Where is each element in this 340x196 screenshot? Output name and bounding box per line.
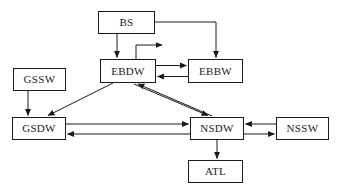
node-ebdw-label: EBDW <box>111 66 145 77</box>
node-bs[interactable]: BS <box>98 11 155 34</box>
diagram-edges <box>0 0 340 196</box>
edge-bs-ebbw <box>155 22 216 58</box>
node-ebbw[interactable]: EBBW <box>188 59 243 83</box>
edge-ebdw-nsdw <box>134 84 208 116</box>
node-gsdw-label: GSDW <box>22 123 56 134</box>
node-nssw-label: NSSW <box>287 123 319 134</box>
node-bs-label: BS <box>119 17 133 28</box>
node-gsdw[interactable]: GSDW <box>12 117 66 140</box>
edge-ebdw-self <box>136 45 162 59</box>
node-ebbw-label: EBBW <box>199 66 232 77</box>
node-nsdw[interactable]: NSDW <box>190 117 244 140</box>
edge-nsdw-ebdw <box>138 84 212 116</box>
node-gssw-label: GSSW <box>24 74 56 85</box>
node-atl-label: ATL <box>205 166 226 177</box>
node-ebdw[interactable]: EBDW <box>100 59 156 83</box>
node-atl[interactable]: ATL <box>188 160 243 183</box>
node-nssw[interactable]: NSSW <box>276 117 329 140</box>
node-nsdw-label: NSDW <box>200 123 234 134</box>
diagram-canvas: BS GSSW EBDW EBBW GSDW NSDW NSSW ATL <box>0 0 340 196</box>
node-gssw[interactable]: GSSW <box>13 68 66 91</box>
